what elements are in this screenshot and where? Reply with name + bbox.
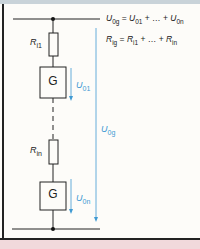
equation-voltage: U0g = U01 + … + U0n — [106, 13, 184, 25]
resistor-rin — [49, 140, 58, 164]
arrow-u0g — [94, 28, 98, 222]
label-rin: Rin — [30, 145, 42, 157]
label-u0n: U0n — [76, 193, 90, 205]
arrow-u01 — [69, 68, 73, 101]
resistor-ri1 — [49, 33, 58, 56]
bottom-node-dot — [51, 227, 55, 231]
generator-1-label: G — [40, 74, 66, 88]
equation-resistance: Rig = Ri1 + … + Rin — [106, 34, 177, 46]
generator-n-label: G — [40, 187, 66, 201]
label-u0g: U0g — [101, 124, 115, 136]
footer-bar — [0, 240, 200, 249]
label-ri1: Ri1 — [30, 37, 42, 49]
label-u01: U01 — [76, 80, 90, 92]
arrow-u0n — [69, 179, 73, 214]
